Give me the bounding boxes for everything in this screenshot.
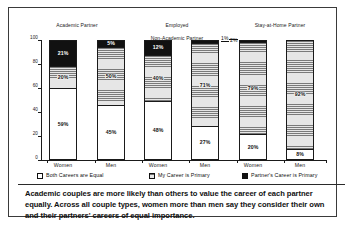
y-tick-label: 20 — [33, 132, 38, 137]
bar-nonacademic-women[interactable]: 12% 40% 48% — [144, 40, 172, 160]
x-tick — [326, 160, 327, 163]
legend-label: Partner's Career is Primary — [251, 173, 317, 178]
legend-item-my-career-primary[interactable]: My Career is Primary — [149, 173, 210, 179]
bar-segment-value: 5% — [107, 41, 115, 46]
group-title-employed-nonacademic-partner: Employed Non-Academic Partner — [131, 16, 223, 41]
bar-segment-value: 20% — [57, 75, 69, 80]
bar-segment-value: 92% — [294, 92, 306, 97]
y-tick-mark — [38, 136, 42, 137]
x-category-label-nonacademic-women: Women — [141, 163, 175, 168]
bar-stayhome-women[interactable]: 1% 79% 20% — [239, 40, 267, 160]
bar-segment-value: 50% — [105, 74, 117, 79]
y-axis-line — [41, 40, 42, 160]
y-tick-mark — [38, 112, 42, 113]
bar-academic-men[interactable]: 5% 50% 45% — [97, 40, 125, 160]
bar-segment-both-equal[interactable]: 59% — [50, 89, 76, 159]
y-tick-mark — [38, 160, 42, 161]
bar-segment-value: 48% — [153, 128, 164, 133]
bar-segment-both-equal[interactable]: 20% — [240, 135, 266, 159]
bar-segment-my-career-primary[interactable]: 50% — [98, 47, 124, 106]
bar-academic-women[interactable]: 21% 20% 59% — [49, 40, 77, 160]
bar-segment-value: 20% — [248, 145, 259, 150]
group-title-line1: Employed — [165, 22, 188, 28]
bar-segment-value: 27% — [200, 140, 211, 145]
bar-segment-my-career-primary[interactable]: 92% — [287, 41, 313, 150]
bar-segment-my-career-primary[interactable]: 71% — [192, 43, 218, 127]
figure-caption: Academic couples are more likely than ot… — [25, 189, 339, 221]
bar-segment-value: 21% — [58, 51, 69, 56]
figure-root: Academic Partner Employed Non-Academic P… — [0, 0, 345, 225]
bar-segment-value: 12% — [153, 45, 164, 50]
bar-segment-value: 59% — [58, 122, 69, 127]
legend-swatch-white-icon — [37, 173, 43, 179]
y-tick-label: 0 — [35, 156, 38, 161]
x-category-label-stayhome-women: Women — [236, 163, 270, 168]
bar-segment-my-career-primary[interactable]: 40% — [145, 55, 171, 102]
bar-segment-both-equal[interactable]: 48% — [145, 102, 171, 159]
group-title-academic-partner: Academic Partner — [35, 22, 119, 28]
bar-segment-my-career-primary[interactable]: 20% — [50, 66, 76, 90]
y-tick-label: 60 — [33, 84, 38, 89]
chart-legend: Both Careers are Equal My Career is Prim… — [23, 173, 343, 184]
y-tick-label: 80 — [33, 60, 38, 65]
y-tick-label: 100 — [30, 36, 38, 41]
bar-segment-partner-primary[interactable]: 21% — [50, 41, 76, 66]
bar-nonacademic-men[interactable]: 2% 71% 27% — [191, 40, 219, 160]
bar-segment-value: 45% — [106, 130, 117, 135]
bar-segment-my-career-primary[interactable]: 79% — [240, 42, 266, 135]
legend-item-partners-career-primary[interactable]: Partner's Career is Primary — [242, 173, 317, 179]
bar-segment-both-equal[interactable]: 45% — [98, 106, 124, 159]
callout-label-1-percent: 1% — [221, 36, 228, 41]
y-tick-mark — [38, 88, 42, 89]
legend-label: My Career is Primary — [158, 173, 210, 178]
bar-segment-partner-primary[interactable]: 12% — [145, 41, 171, 55]
bar-segment-both-equal[interactable]: 8% — [287, 150, 313, 159]
legend-swatch-striped-icon — [149, 173, 155, 179]
callout-value: 1% — [221, 35, 228, 41]
chart-plot-area: Academic Partner Employed Non-Academic P… — [21, 22, 329, 167]
x-category-label-academic-men: Men — [94, 163, 128, 168]
bar-segment-value: 40% — [152, 76, 164, 81]
bar-segment-value: 71% — [199, 83, 211, 88]
caption-divider — [18, 184, 345, 185]
x-category-label-stayhome-men: Men — [283, 163, 317, 168]
y-tick-mark — [38, 64, 42, 65]
legend-label: Both Careers are Equal — [46, 173, 104, 178]
y-tick-mark — [38, 40, 42, 41]
callout-leader-line — [229, 39, 238, 40]
legend-item-both-careers-equal[interactable]: Both Careers are Equal — [37, 173, 104, 179]
bar-segment-both-equal[interactable]: 27% — [192, 127, 218, 159]
bar-stayhome-men[interactable]: 92% 8% — [286, 40, 314, 160]
bar-segment-value: 79% — [247, 86, 259, 91]
legend-swatch-black-icon — [242, 173, 248, 179]
x-category-label-nonacademic-men: Men — [188, 163, 222, 168]
y-tick-label: 40 — [33, 108, 38, 113]
axis-area: 100 80 60 40 20 — [41, 40, 327, 160]
x-category-label-academic-women: Women — [46, 163, 80, 168]
bar-segment-value: 8% — [296, 152, 304, 157]
group-title-stay-at-home-partner: Stay-at-Home Partner — [233, 22, 327, 28]
figure-frame: Academic Partner Employed Non-Academic P… — [8, 7, 337, 217]
